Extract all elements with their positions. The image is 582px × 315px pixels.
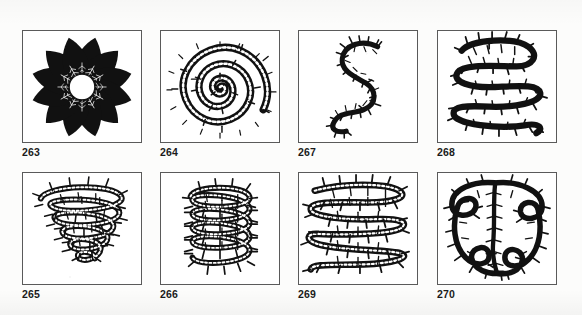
figure-caption-266: 266 [160, 289, 178, 300]
figure-artwork-265 [23, 173, 141, 284]
figure-caption-265: 265 [22, 289, 40, 300]
figure-caption-268: 268 [437, 147, 455, 158]
figure-caption-269: 269 [298, 289, 316, 300]
figure-artwork-266 [161, 173, 279, 284]
figure-caption-270: 270 [437, 289, 455, 300]
figure-artwork-267 [299, 31, 417, 142]
figure-artwork-270 [438, 173, 556, 284]
figure-artwork-264 [161, 31, 279, 142]
figure-artwork-268 [438, 31, 556, 142]
figure-plate: 263 [0, 0, 582, 315]
figure-caption-264: 264 [160, 147, 178, 158]
figure-panel-266 [160, 172, 280, 285]
figure-panel-270 [437, 172, 557, 285]
figure-panel-263 [22, 30, 142, 143]
figure-panel-265 [22, 172, 142, 285]
figure-caption-267: 267 [298, 147, 316, 158]
figure-panel-269 [298, 172, 418, 285]
figure-panel-267 [298, 30, 418, 143]
figure-artwork-269 [299, 173, 417, 284]
figure-panel-268 [437, 30, 557, 143]
figure-panel-264 [160, 30, 280, 143]
figure-caption-263: 263 [22, 147, 40, 158]
figure-artwork-263 [23, 31, 141, 142]
